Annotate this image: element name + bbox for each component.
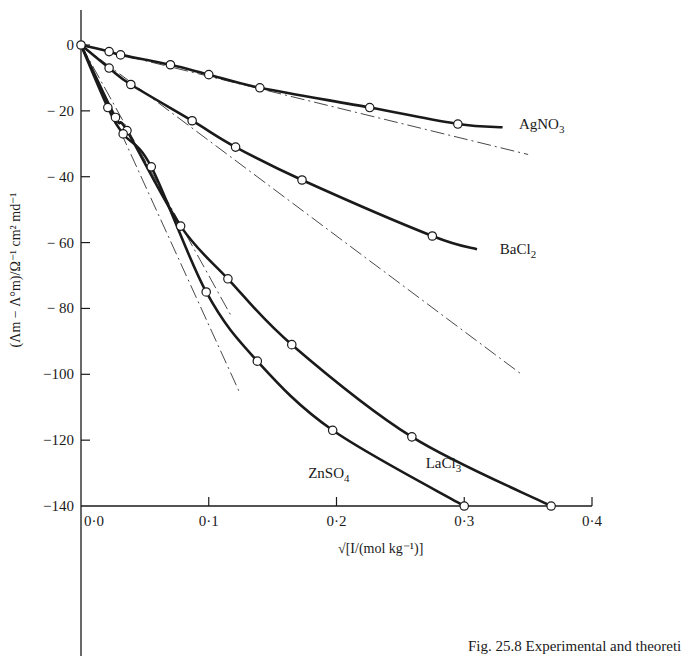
theory-line-lacl3	[81, 45, 232, 317]
marker-bacl2	[231, 143, 239, 151]
marker-agno3	[454, 120, 462, 128]
figure-caption: Fig. 25.8 Experimental and theoreti	[468, 638, 681, 655]
marker-agno3	[166, 61, 174, 69]
marker-lacl3	[176, 222, 184, 230]
marker-znso4	[147, 163, 155, 171]
marker-agno3	[366, 103, 374, 111]
data-markers	[77, 41, 556, 510]
marker-bacl2	[127, 80, 135, 88]
x-tick-label: 0·2	[327, 513, 347, 529]
series-label-znso4: ZnSO4	[308, 465, 350, 484]
marker-lacl3	[547, 502, 555, 510]
marker-znso4	[202, 288, 210, 296]
y-tick-label: −100	[43, 366, 74, 382]
x-tick-label: 0·0	[84, 513, 104, 529]
marker-lacl3	[288, 340, 296, 348]
marker-lacl3	[224, 275, 232, 283]
marker-znso4	[119, 130, 127, 138]
marker-agno3	[256, 84, 264, 92]
curve-bacl2	[81, 45, 477, 249]
y-tick-label: −140	[43, 498, 74, 514]
y-tick-label: − 80	[47, 300, 74, 316]
marker-znso4	[328, 426, 336, 434]
series-labels: AgNO3BaCl2LaCl3ZnSO4	[308, 116, 565, 484]
marker-agno3	[205, 70, 213, 78]
series-label-lacl3: LaCl3	[426, 455, 462, 474]
curve-lacl3	[81, 45, 551, 506]
marker-bacl2	[105, 64, 113, 72]
x-tick-label: 0·4	[582, 513, 602, 529]
y-axis-title: (Λm − Λ°m)/Ω⁻¹ cm² md⁻¹	[8, 193, 24, 348]
y-ticks: 0− 20− 40− 60− 80−100−120−140	[43, 37, 90, 514]
experimental-curves	[81, 45, 551, 506]
marker-lacl3	[408, 433, 416, 441]
marker-agno3	[116, 51, 124, 59]
series-label-bacl2: BaCl2	[500, 241, 536, 260]
curve-agno3	[81, 45, 503, 127]
marker-agno3	[105, 47, 113, 55]
y-tick-label: − 60	[47, 235, 74, 251]
x-tick-label: 0·1	[199, 513, 219, 529]
marker-agno3	[77, 41, 85, 49]
x-ticks: 0·00·10·20·30·4	[84, 497, 602, 529]
x-tick-label: 0·3	[454, 513, 474, 529]
y-tick-label: −120	[43, 432, 74, 448]
marker-lacl3	[111, 113, 119, 121]
marker-znso4	[104, 103, 112, 111]
marker-znso4	[253, 357, 261, 365]
x-axis-title: √[I/(mol kg⁻¹)]	[338, 541, 423, 557]
marker-bacl2	[428, 232, 436, 240]
axes: 0− 20− 40− 60− 80−100−120−140 0·00·10·20…	[43, 10, 602, 656]
y-tick-label: 0	[67, 37, 75, 53]
series-label-agno3: AgNO3	[519, 116, 565, 135]
marker-bacl2	[188, 117, 196, 125]
marker-znso4	[460, 502, 468, 510]
marker-bacl2	[298, 176, 306, 184]
y-tick-label: − 20	[47, 103, 74, 119]
y-tick-label: − 40	[47, 169, 74, 185]
